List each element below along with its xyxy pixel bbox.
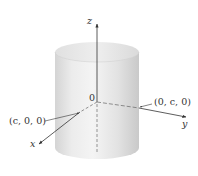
- x-axis-label: x: [30, 138, 35, 149]
- cylinder-diagram: [0, 0, 198, 176]
- y-axis: [139, 108, 186, 117]
- z-axis-label: z: [87, 15, 92, 26]
- y-axis-label: y: [182, 118, 187, 129]
- point-c-0-0-label: (c, 0, 0): [9, 115, 46, 126]
- point-y-leader: [140, 104, 152, 107]
- origin-label: 0: [89, 92, 95, 103]
- point-0-c-0-label: (0, c, 0): [154, 96, 191, 107]
